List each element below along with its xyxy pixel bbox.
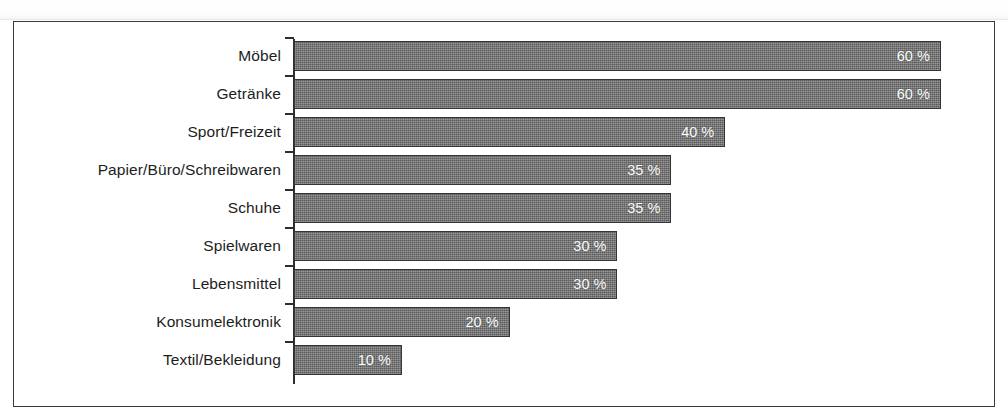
bar-row: Möbel60 % (14, 41, 994, 71)
bar-row: Lebensmittel30 % (14, 269, 994, 299)
category-label: Sport/Freizeit (187, 123, 281, 141)
axis-tick (285, 303, 294, 305)
bar: 35 % (294, 193, 671, 223)
bar-value-label: 60 % (897, 48, 940, 64)
bar: 10 % (294, 345, 402, 375)
bar-row: Textil/Bekleidung10 % (14, 345, 994, 375)
axis-tick (285, 113, 294, 115)
bar: 60 % (294, 41, 941, 71)
axis-tick (285, 265, 294, 267)
bar-value-label: 35 % (627, 200, 670, 216)
category-label: Schuhe (228, 199, 281, 217)
scan-artifact-band (0, 0, 1008, 20)
bar: 40 % (294, 117, 725, 147)
bar-value-label: 60 % (897, 86, 940, 102)
bar-row: Konsumelektronik20 % (14, 307, 994, 337)
axis-tick (285, 37, 294, 39)
bar-row: Papier/Büro/Schreibwaren35 % (14, 155, 994, 185)
bar: 20 % (294, 307, 510, 337)
bar-row: Sport/Freizeit40 % (14, 117, 994, 147)
bar-row: Schuhe35 % (14, 193, 994, 223)
axis-tick (285, 341, 294, 343)
plot-area: Möbel60 %Getränke60 %Sport/Freizeit40 %P… (14, 22, 994, 406)
bar: 35 % (294, 155, 671, 185)
bar-value-label: 10 % (358, 352, 401, 368)
bar-value-label: 20 % (466, 314, 509, 330)
bar-row: Getränke60 % (14, 79, 994, 109)
bar: 30 % (294, 231, 617, 261)
chart-frame: Möbel60 %Getränke60 %Sport/Freizeit40 %P… (13, 21, 995, 407)
category-label: Lebensmittel (192, 275, 281, 293)
bar-row: Spielwaren30 % (14, 231, 994, 261)
bar-value-label: 40 % (681, 124, 724, 140)
category-label: Papier/Büro/Schreibwaren (98, 161, 281, 179)
category-label: Konsumelektronik (156, 313, 281, 331)
axis-tick (285, 227, 294, 229)
bar-value-label: 30 % (573, 276, 616, 292)
axis-tick (285, 151, 294, 153)
axis-tick (285, 75, 294, 77)
category-label: Möbel (238, 47, 281, 65)
bar: 30 % (294, 269, 617, 299)
category-label: Getränke (216, 85, 281, 103)
bar-value-label: 35 % (627, 162, 670, 178)
axis-tick (285, 189, 294, 191)
bar: 60 % (294, 79, 941, 109)
bar-value-label: 30 % (573, 238, 616, 254)
category-label: Spielwaren (203, 237, 281, 255)
category-label: Textil/Bekleidung (163, 351, 281, 369)
